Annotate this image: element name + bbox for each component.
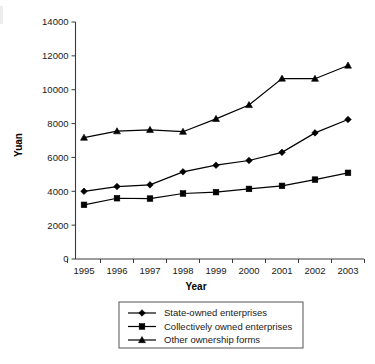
x-axis-tick-label: 1998 — [172, 265, 193, 276]
data-point — [114, 195, 120, 201]
legend-item-label: Collectively owned enterprises — [164, 321, 293, 332]
x-axis-title: Year — [185, 281, 206, 292]
y-axis-tick-label: 4000 — [47, 186, 68, 197]
legend-square-icon — [139, 324, 145, 330]
y-axis-tick-label: 8000 — [47, 118, 68, 129]
data-point — [345, 170, 351, 176]
y-axis-tick-label: 2000 — [47, 220, 68, 231]
x-axis-tick-label: 1997 — [139, 265, 160, 276]
x-axis-tick-label: 1999 — [205, 265, 226, 276]
y-axis-tick-label: 14000 — [42, 16, 68, 27]
x-axis-tick-label: 2001 — [271, 265, 292, 276]
x-axis-tick-label: 1996 — [106, 265, 127, 276]
chart-canvas: 02000400060008000100001200014000 1995199… — [0, 0, 375, 364]
data-point — [81, 202, 87, 208]
x-axis-tick-label: 1995 — [73, 265, 94, 276]
legend-item-label: Other ownership forms — [164, 334, 260, 345]
data-point — [246, 186, 252, 192]
y-axis-tick-label: 6000 — [47, 152, 68, 163]
data-point — [213, 189, 219, 195]
data-point — [180, 191, 186, 197]
x-axis-tick-label: 2000 — [238, 265, 259, 276]
data-point — [279, 183, 285, 189]
data-point — [147, 196, 153, 202]
y-axis-tick-label: 10000 — [42, 84, 68, 95]
x-axis-tick-label: 2002 — [304, 265, 325, 276]
y-axis-title: Yuan — [13, 133, 24, 157]
data-point — [312, 177, 318, 183]
legend-item-label: State-owned enterprises — [164, 307, 267, 318]
scan-edge-artifact — [0, 6, 3, 24]
line-chart: 02000400060008000100001200014000 1995199… — [0, 0, 375, 364]
y-axis-tick-label: 12000 — [42, 50, 68, 61]
x-axis-tick-label: 2003 — [337, 265, 358, 276]
